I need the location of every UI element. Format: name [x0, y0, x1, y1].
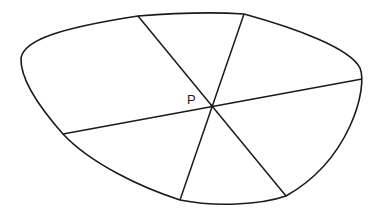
point-p-marker: [210, 104, 213, 107]
diagram-canvas: P: [0, 0, 377, 215]
region-boundary: [21, 13, 362, 204]
point-p-label: P: [187, 92, 196, 107]
